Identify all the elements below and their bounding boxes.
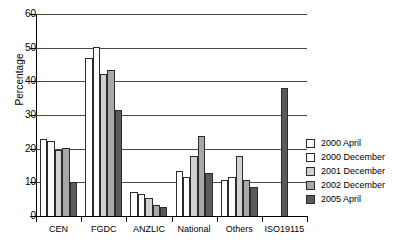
bar: [228, 177, 235, 216]
bar: [183, 177, 190, 216]
x-tick-label: ANZLIC: [133, 224, 165, 234]
legend-swatch-icon: [306, 195, 315, 204]
bar: [93, 47, 100, 216]
bar-group: [217, 14, 262, 216]
x-tick-label: National: [178, 224, 211, 234]
legend-label: 2000 April: [321, 138, 361, 148]
x-tick-mark: [307, 216, 308, 222]
bar: [145, 198, 152, 216]
x-tick-label: FGDC: [91, 224, 117, 234]
bar: [85, 58, 92, 216]
bar: [62, 148, 69, 216]
legend-item[interactable]: 2001 December: [306, 166, 385, 176]
x-tick-mark: [217, 216, 218, 222]
x-tick-mark: [126, 216, 127, 222]
x-tick-label: Others: [226, 224, 253, 234]
bar: [100, 74, 107, 216]
legend-label: 2001 December: [321, 166, 385, 176]
legend-item[interactable]: 2005 April: [306, 194, 385, 204]
bar: [236, 156, 243, 216]
bar: [250, 187, 257, 216]
bar: [130, 192, 137, 216]
bar: [243, 180, 250, 216]
y-axis-ticks: 0102030405060: [0, 0, 36, 247]
bar: [176, 171, 183, 216]
legend-item[interactable]: 2000 April: [306, 138, 385, 148]
x-tick-mark: [172, 216, 173, 222]
bar-group: [126, 14, 171, 216]
bar-groups: [36, 14, 307, 216]
bar: [40, 139, 47, 216]
x-tick-mark: [262, 216, 263, 222]
bar: [190, 156, 197, 216]
bar-group: [172, 14, 217, 216]
bar: [138, 194, 145, 216]
bar: [70, 182, 77, 216]
bar: [153, 205, 160, 216]
legend-label: 2005 April: [321, 194, 361, 204]
bar: [160, 207, 167, 216]
legend-swatch-icon: [306, 139, 315, 148]
bar-chart: Percentage 0102030405060 CENFGDCANZLICNa…: [0, 0, 401, 247]
legend-item[interactable]: 2002 December: [306, 180, 385, 190]
legend: 2000 April2000 December2001 December2002…: [306, 138, 385, 204]
plot-area: [36, 14, 307, 216]
bar-group: [81, 14, 126, 216]
legend-label: 2002 December: [321, 180, 385, 190]
bar-group: [36, 14, 81, 216]
bar: [198, 136, 205, 216]
bar: [55, 150, 62, 216]
legend-label: 2000 December: [321, 152, 385, 162]
bar: [205, 173, 212, 216]
legend-item[interactable]: 2000 December: [306, 152, 385, 162]
bar: [281, 88, 288, 216]
legend-swatch-icon: [306, 181, 315, 190]
legend-swatch-icon: [306, 167, 315, 176]
bar: [221, 180, 228, 216]
x-tick-mark: [36, 216, 37, 222]
bar: [47, 141, 54, 216]
legend-swatch-icon: [306, 153, 315, 162]
x-tick-label: ISO19115: [264, 224, 304, 234]
bar: [115, 110, 122, 216]
bar: [107, 70, 114, 216]
x-tick-label: CEN: [49, 224, 68, 234]
bar-group: [262, 14, 307, 216]
x-tick-mark: [81, 216, 82, 222]
